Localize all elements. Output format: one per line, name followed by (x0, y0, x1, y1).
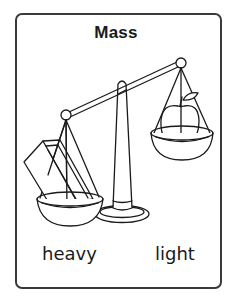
heavy-label: heavy (42, 243, 97, 264)
scale-pole-icon (113, 81, 132, 210)
right-pivot-icon (176, 58, 186, 68)
left-pivot-icon (61, 110, 71, 120)
light-label: light (155, 243, 195, 264)
balance-scale-illustration (0, 0, 232, 301)
